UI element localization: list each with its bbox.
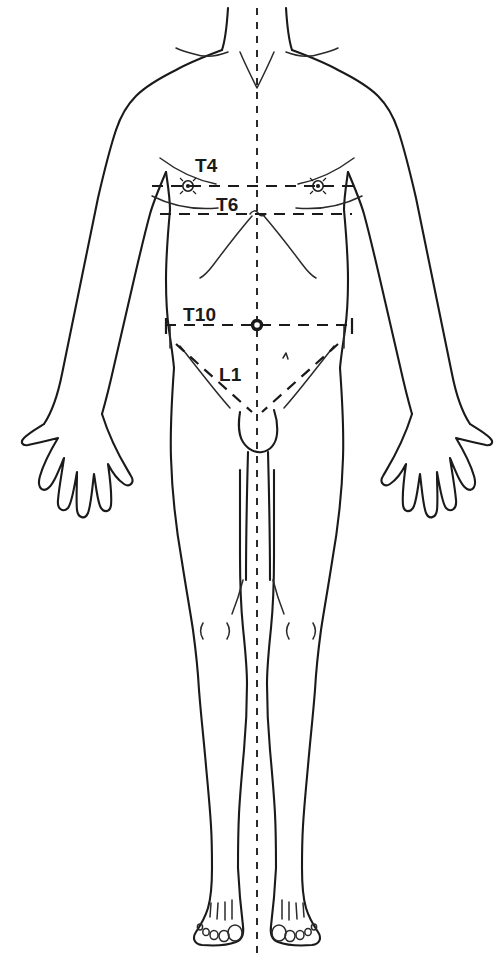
left-hand-outline: [22, 414, 133, 517]
penis-left-outline: [246, 452, 248, 580]
dermatome-diagram-canvas: T4 T6 T10 L1: [0, 0, 504, 963]
left-nipple-marker: [180, 178, 196, 194]
left-toe-line-2: [217, 903, 218, 919]
right-pectoral-fold: [298, 158, 354, 184]
right-torso-outline: [344, 172, 348, 210]
right-arm-inner-outline: [348, 172, 412, 414]
left-toenail-4: [203, 928, 209, 935]
left-knee-lateral-mark: [227, 623, 229, 639]
left-toenail-3: [210, 931, 218, 940]
left-toenail-2: [219, 931, 229, 942]
left-costal-margin: [200, 216, 252, 278]
right-medial-thigh-line: [273, 580, 284, 614]
left-leg-outer-outline: [171, 368, 212, 868]
label-l1: L1: [219, 365, 242, 384]
right-toe-line-2: [296, 903, 297, 919]
left-toe-line-1: [210, 903, 211, 917]
right-toenail-2: [285, 931, 295, 942]
groin-outline: [239, 410, 277, 452]
right-toenail-big: [272, 925, 286, 941]
right-clavicle-line: [286, 48, 338, 56]
left-shoulder-outline: [116, 50, 222, 130]
left-knee-medial-mark: [201, 623, 203, 639]
body-figure-svg: [0, 0, 504, 963]
left-clavicle-line: [176, 48, 228, 56]
label-t10: T10: [183, 305, 216, 324]
right-knee-medial-mark: [287, 623, 289, 639]
right-arm-outer-outline: [398, 130, 470, 424]
pubic-tick: [283, 353, 288, 359]
neck-left-outline: [222, 8, 228, 50]
right-inframammary-fold: [296, 196, 362, 209]
left-inframammary-fold: [152, 196, 218, 209]
right-toenail-3: [296, 931, 304, 940]
right-nipple-marker: [310, 178, 326, 194]
left-arm-outer-outline: [44, 130, 116, 424]
left-torso-outline: [166, 172, 170, 210]
right-toenail-4: [305, 928, 311, 935]
right-shoulder-outline: [292, 50, 398, 130]
penis-right-outline: [268, 452, 270, 580]
right-knee-lateral-mark: [313, 623, 315, 639]
right-leg-inner-outline: [267, 470, 276, 868]
right-leg-outer-outline: [302, 368, 343, 868]
label-t4: T4: [195, 156, 218, 175]
right-inguinal-crease: [284, 346, 334, 408]
neck-right-outline: [286, 8, 292, 50]
label-t6: T6: [216, 195, 239, 214]
umbilicus-marker: [251, 319, 263, 331]
right-costal-margin: [264, 216, 316, 278]
left-arm-inner-outline: [102, 172, 166, 414]
left-toenail-big: [228, 925, 242, 941]
right-toe-line-1: [303, 903, 304, 917]
right-hand-outline: [382, 414, 493, 517]
